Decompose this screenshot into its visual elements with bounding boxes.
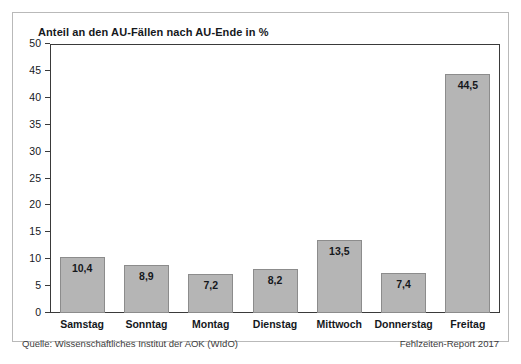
x-axis-label: Montag — [179, 318, 243, 330]
chart-figure: Anteil an den AU-Fällen nach AU-Ende in … — [0, 0, 521, 364]
y-axis-tick-label: 10 — [29, 252, 41, 265]
x-axis-label: Freitag — [436, 318, 500, 330]
bar: 13,5 — [317, 240, 362, 313]
y-axis-tick-label: 45 — [29, 64, 41, 77]
y-axis-tick-label: 15 — [29, 225, 41, 238]
chart-title: Anteil an den AU-Fällen nach AU-Ende in … — [38, 26, 269, 38]
footer-report: Fehlzeiten-Report 2017 — [400, 338, 499, 349]
y-axis-tick-label: 30 — [29, 145, 41, 158]
plot-area: 10,48,97,28,213,57,444,5 — [50, 44, 500, 313]
footer-source: Quelle: Wissenschaftliches Institut der … — [22, 338, 238, 349]
bar: 7,2 — [188, 274, 233, 313]
bar-value-label: 8,9 — [125, 270, 168, 282]
bar-value-label: 10,4 — [61, 262, 104, 274]
bar-value-label: 7,4 — [382, 278, 425, 290]
x-axis-label: Sonntag — [114, 318, 178, 330]
bar-value-label: 7,2 — [189, 279, 232, 291]
bar: 44,5 — [445, 74, 490, 313]
bar-value-label: 13,5 — [318, 245, 361, 257]
x-axis-label: Dienstag — [243, 318, 307, 330]
y-axis-tick-label: 5 — [35, 279, 41, 292]
y-axis-tick-label: 35 — [29, 118, 41, 131]
bar-value-label: 8,2 — [254, 274, 297, 286]
bar: 8,9 — [124, 265, 169, 313]
bar: 7,4 — [381, 273, 426, 313]
y-axis-tick-label: 20 — [29, 198, 41, 211]
y-axis-tick-label: 0 — [35, 306, 41, 319]
bar: 8,2 — [253, 269, 298, 313]
y-axis-tick-label: 25 — [29, 172, 41, 185]
bar-value-label: 44,5 — [446, 79, 489, 91]
x-axis-label: Samstag — [50, 318, 114, 330]
bar: 10,4 — [60, 257, 105, 313]
y-axis-tick-label: 50 — [29, 37, 41, 50]
x-axis-label: Donnerstag — [371, 318, 435, 330]
y-axis-tick-label: 40 — [29, 91, 41, 104]
x-axis-label: Mittwoch — [307, 318, 371, 330]
